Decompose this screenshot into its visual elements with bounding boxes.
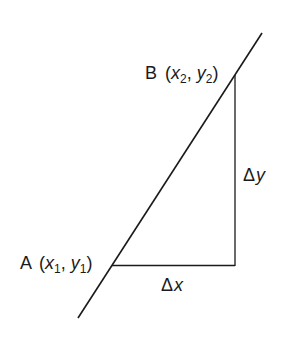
delta-y-label: Δy	[243, 165, 266, 185]
slope-diagram: B (x2, y2) A (x1, y1) Δy Δx	[0, 0, 284, 339]
point-a-label: A (x1, y1)	[20, 253, 92, 276]
point-b-label: B (x2, y2)	[145, 63, 218, 86]
delta-x-label: Δx	[161, 275, 184, 295]
